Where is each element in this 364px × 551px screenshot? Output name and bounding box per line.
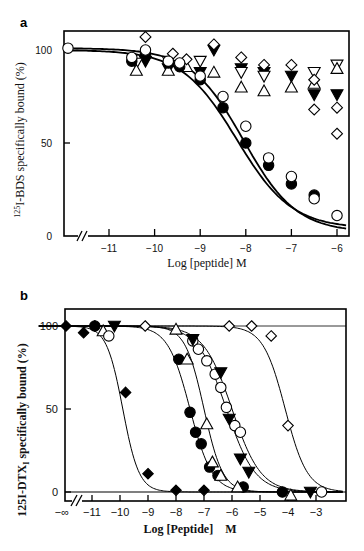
- series-filled-circle: [90, 321, 288, 497]
- triangle-up-marker: [235, 81, 247, 92]
- triangle-down-marker: [243, 467, 255, 478]
- circle-marker: [140, 45, 150, 55]
- circle-marker: [286, 171, 296, 181]
- x-tick-label: −9: [142, 506, 155, 518]
- circle-marker: [193, 344, 203, 354]
- circle-marker: [163, 56, 173, 66]
- circle-marker: [90, 321, 100, 331]
- circle-marker: [235, 427, 245, 437]
- y-tick-label: 0: [46, 231, 52, 242]
- triangle-down-marker: [258, 71, 270, 82]
- diamond-marker: [332, 102, 343, 113]
- x-tick-label: −4: [282, 506, 295, 518]
- circle-marker: [218, 102, 228, 112]
- circle-marker: [332, 210, 342, 220]
- circle-marker: [63, 43, 73, 53]
- circle-marker: [185, 407, 195, 417]
- y-tick-label: 100: [35, 45, 52, 56]
- circle-marker: [277, 487, 287, 497]
- panel-a-y-axis-title: 125I-BDS specifically bound (%): [13, 62, 27, 218]
- diamond-marker: [143, 468, 154, 479]
- x-tick-label: −11: [101, 243, 118, 254]
- triangle-down-marker: [234, 454, 246, 465]
- triangle-up-marker: [208, 66, 220, 77]
- fit-curve: [68, 50, 346, 225]
- panel-a-letter: a: [20, 15, 28, 30]
- y-tick-label: 50: [41, 138, 53, 149]
- fit-curve: [68, 48, 346, 228]
- diamond-marker: [61, 321, 72, 332]
- circle-marker: [190, 427, 200, 437]
- panel-a: a 050100−11−10−9−8−7−6 Log [peptide] M 1…: [13, 15, 349, 270]
- triangle-up-marker: [258, 85, 270, 96]
- circle-marker: [202, 356, 212, 366]
- y-tick-label: 50: [46, 403, 58, 415]
- y-tick-label: 0: [52, 486, 58, 498]
- circle-marker: [218, 91, 228, 101]
- diamond-marker: [246, 321, 257, 332]
- panel-a-frame: [64, 31, 349, 236]
- x-tick-label: −10: [146, 243, 163, 254]
- x-tick-label: −9: [194, 243, 206, 254]
- diamond-marker: [286, 59, 297, 70]
- circle-marker: [195, 71, 205, 81]
- x-tick-label: −∞: [55, 506, 69, 518]
- figure: a 050100−11−10−9−8−7−6 Log [peptide] M 1…: [0, 0, 364, 551]
- circle-marker: [104, 331, 114, 341]
- circle-marker: [174, 58, 184, 68]
- diamond-marker: [266, 331, 277, 342]
- x-tick-label: −7: [286, 243, 298, 254]
- circle-marker: [221, 402, 231, 412]
- diamond-marker: [140, 32, 151, 43]
- panel-b: b 050100−∞−11−10−9−8−7−6−5−4−3 Log [Pept…: [15, 288, 346, 536]
- circle-marker: [241, 138, 251, 148]
- x-tick-label: −7: [198, 506, 211, 518]
- circle-marker: [241, 121, 251, 131]
- diamond-marker: [120, 387, 131, 398]
- x-tick-label: −8: [240, 243, 252, 254]
- diamond-marker: [224, 321, 235, 332]
- diamond-marker: [236, 52, 247, 63]
- x-tick-label: −3: [310, 506, 323, 518]
- panel-a-x-axis-title: Log [peptide] M: [167, 256, 247, 270]
- circle-marker: [196, 439, 206, 449]
- panel-b-data-points: [61, 321, 327, 500]
- diamond-marker: [78, 327, 89, 338]
- triangle-down-marker: [331, 90, 343, 101]
- panel-b-letter: b: [20, 288, 28, 303]
- diamond-marker: [199, 485, 210, 496]
- x-tick-label: −11: [83, 506, 101, 518]
- circle-marker: [263, 153, 273, 163]
- triangle-up-marker: [201, 418, 213, 429]
- x-tick-label: −10: [111, 506, 130, 518]
- panel-a-data-points: [63, 32, 343, 221]
- circle-marker: [309, 194, 319, 204]
- diamond-marker: [283, 420, 294, 431]
- triangle-down-marker: [235, 68, 247, 79]
- panel-a-fit-curves: [68, 48, 346, 228]
- axis-break-icon: [71, 495, 82, 506]
- diamond-marker: [309, 104, 320, 115]
- circle-marker: [216, 382, 226, 392]
- axis-break-icon: [77, 231, 88, 241]
- x-tick-label: −6: [226, 506, 239, 518]
- triangle-up-marker: [285, 81, 297, 92]
- diamond-marker: [332, 128, 343, 139]
- x-tick-label: −6: [331, 243, 343, 254]
- circle-marker: [316, 487, 326, 497]
- circle-marker: [127, 52, 137, 62]
- x-tick-label: −5: [254, 506, 267, 518]
- diamond-marker: [171, 485, 182, 496]
- triangle-down-marker: [308, 90, 320, 101]
- x-tick-label: −8: [170, 506, 183, 518]
- panel-b-y-axis-title: 125I-DTXI specifically bound (%): [15, 343, 31, 516]
- panel-b-x-axis-title: Log [Peptide] M: [144, 522, 237, 536]
- triangle-down-marker: [194, 56, 206, 67]
